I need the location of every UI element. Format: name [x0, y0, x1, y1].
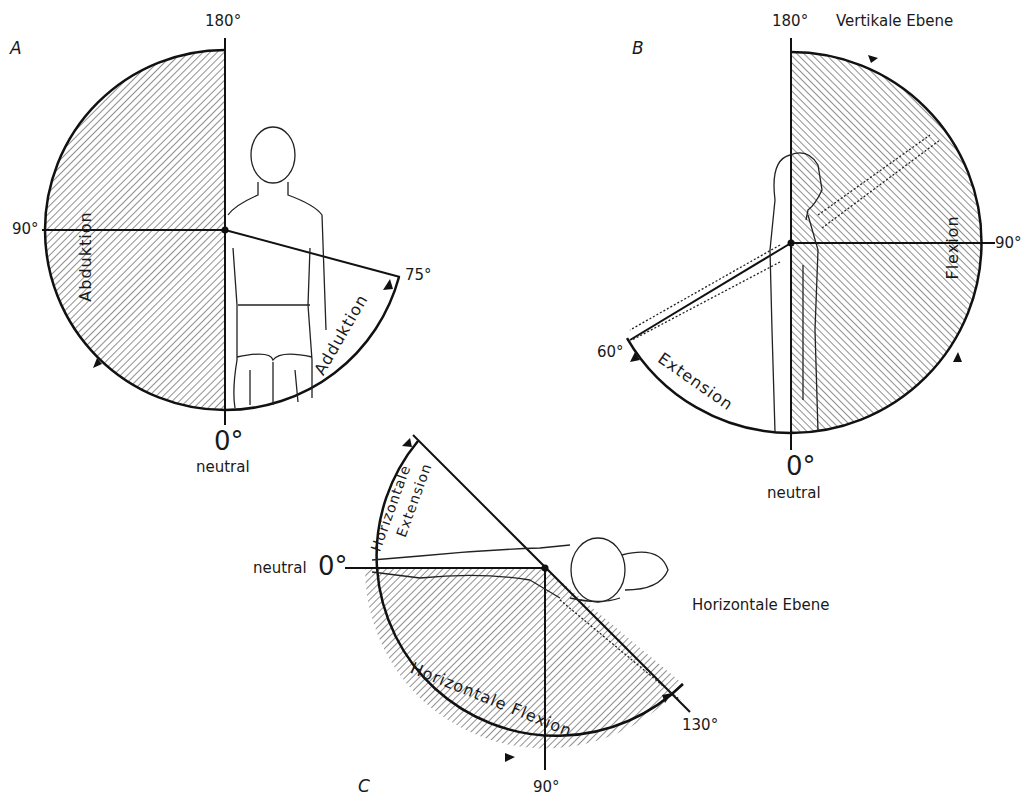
arrow-icon [402, 438, 412, 447]
panel-a-75-label: 75° [405, 268, 432, 283]
panel-c-130-label: 130° [682, 718, 718, 733]
horizontale-ebene-label: Horizontale Ebene [692, 598, 830, 613]
panel-c-neutral-label: neutral [253, 561, 307, 576]
panel-b-neutral-label: neutral [767, 486, 821, 501]
panel-a-neutral-label: neutral [196, 460, 250, 475]
flexion-label: Flexion [943, 215, 962, 279]
abduktion-label: Abduktion [76, 211, 95, 301]
panel-b-60-label: 60° [597, 345, 624, 360]
arrow-icon [868, 55, 878, 63]
diagram-canvas [0, 0, 1026, 809]
panel-c-90-label: 90° [533, 780, 560, 795]
panel-b [627, 38, 995, 450]
vertikale-ebene-label: Vertikale Ebene [836, 14, 953, 29]
arrow-icon [953, 352, 962, 362]
panel-a [42, 38, 400, 425]
arrow-icon [505, 753, 515, 762]
panel-a-90-label: 90° [12, 222, 39, 237]
panel-c-0-label: 0° [318, 553, 348, 579]
arrow-icon [383, 279, 393, 290]
panel-b-letter: B [632, 40, 644, 57]
panel-c-letter: C [358, 778, 370, 795]
panel-a-letter: A [10, 40, 22, 57]
panel-b-90-label: 90° [995, 236, 1022, 251]
panel-b-0-label: 0° [786, 453, 816, 479]
panel-a-0-label: 0° [214, 428, 244, 454]
panel-a-180-label: 180° [205, 14, 241, 29]
panel-b-180-label: 180° [772, 14, 808, 29]
